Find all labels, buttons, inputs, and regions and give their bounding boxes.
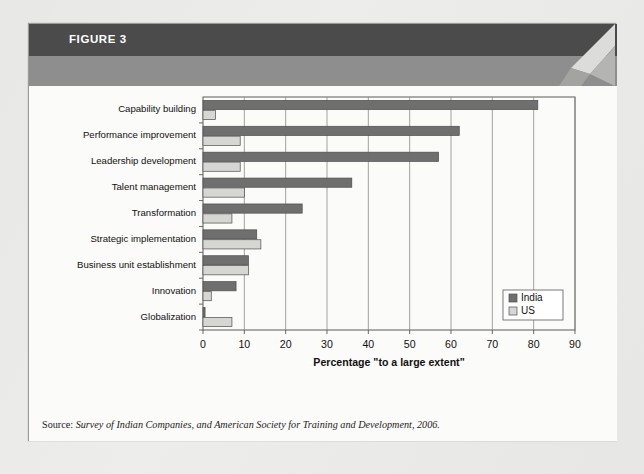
chart-body: Capability buildingPerformance improveme… bbox=[29, 86, 617, 441]
bar-us bbox=[203, 214, 232, 223]
source-text: Survey of Indian Companies, and American… bbox=[76, 419, 440, 430]
x-tick-label: 90 bbox=[569, 338, 581, 350]
source-note: Source: Survey of Indian Companies, and … bbox=[42, 419, 440, 430]
x-tick-label: 50 bbox=[404, 338, 416, 350]
legend-label-us: US bbox=[521, 305, 535, 316]
x-tick-label: 0 bbox=[200, 338, 206, 350]
bar-us bbox=[203, 292, 211, 301]
x-tick-label: 10 bbox=[238, 338, 250, 350]
figure-header-band: FIGURE 3 bbox=[29, 24, 617, 56]
category-label: Globalization bbox=[141, 311, 196, 322]
bar-us bbox=[203, 110, 215, 119]
bar-india bbox=[203, 308, 205, 317]
category-label: Capability building bbox=[118, 103, 196, 114]
x-axis-title: Percentage "to a large extent" bbox=[313, 356, 464, 368]
x-tick-label: 20 bbox=[280, 338, 292, 350]
x-tick-label: 40 bbox=[362, 338, 374, 350]
bar-india bbox=[203, 100, 538, 109]
bar-india bbox=[203, 256, 248, 265]
category-label: Transformation bbox=[132, 207, 196, 218]
source-label: Source: bbox=[42, 419, 73, 430]
bar-chart: Capability buildingPerformance improveme… bbox=[29, 86, 617, 441]
figure-label: FIGURE 3 bbox=[69, 33, 127, 45]
bar-india bbox=[203, 152, 439, 161]
bar-india bbox=[203, 126, 459, 135]
bar-us bbox=[203, 240, 261, 249]
bar-us bbox=[203, 162, 240, 171]
category-label: Innovation bbox=[152, 285, 196, 296]
legend-swatch-us bbox=[509, 307, 517, 315]
category-label: Talent management bbox=[112, 181, 197, 192]
legend-swatch-india bbox=[509, 294, 517, 302]
bar-us bbox=[203, 188, 244, 197]
category-label: Business unit establishment bbox=[77, 259, 196, 270]
legend-label-india: India bbox=[521, 292, 543, 303]
figure-container: FIGURE 3 How the Learning Function Provi… bbox=[28, 23, 616, 441]
x-tick-label: 60 bbox=[445, 338, 457, 350]
bar-us bbox=[203, 266, 248, 275]
category-label: Strategic implementation bbox=[90, 233, 196, 244]
bar-india bbox=[203, 204, 302, 213]
figure-subtitle-band: How the Learning Function Provides Strat… bbox=[29, 56, 617, 86]
bar-india bbox=[203, 282, 236, 291]
bar-india bbox=[203, 230, 257, 239]
category-label: Performance improvement bbox=[83, 129, 196, 140]
bar-us bbox=[203, 317, 232, 326]
category-label: Leadership development bbox=[91, 155, 196, 166]
x-tick-label: 70 bbox=[486, 338, 498, 350]
bar-us bbox=[203, 136, 240, 145]
bar-india bbox=[203, 178, 352, 187]
x-tick-label: 80 bbox=[528, 338, 540, 350]
x-tick-label: 30 bbox=[321, 338, 333, 350]
